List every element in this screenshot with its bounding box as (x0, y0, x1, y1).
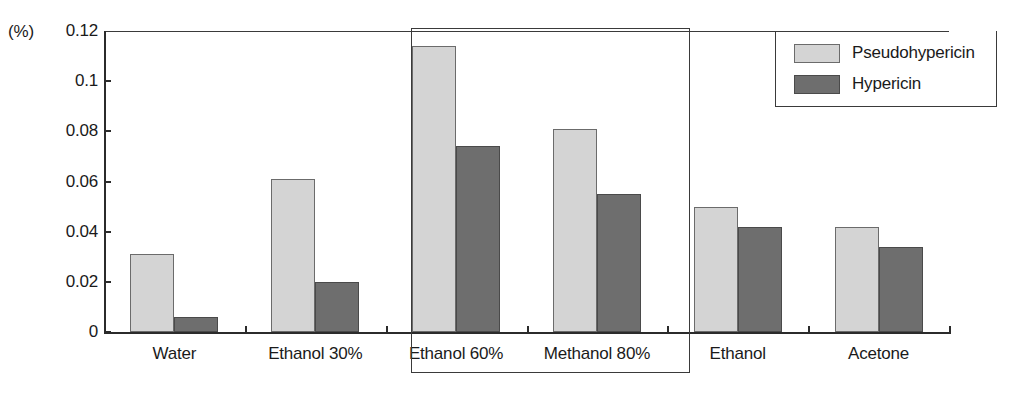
y-axis-tick-label: 0.08 (66, 121, 98, 141)
x-axis-category-label: Ethanol (667, 344, 808, 364)
chart-legend: Pseudohypericin Hypericin (775, 31, 997, 107)
x-axis-category-label: Ethanol 30% (245, 344, 386, 364)
bar (456, 146, 500, 332)
bar-chart: (%) 00.020.040.060.080.10.12 WaterEthano… (0, 0, 1012, 395)
bar (597, 194, 641, 332)
bar (412, 46, 456, 332)
y-axis-unit-label: (%) (8, 22, 34, 42)
y-axis-tick-label: 0.04 (66, 222, 98, 242)
x-axis-category-label: Acetone (808, 344, 949, 364)
bar (879, 247, 923, 332)
y-axis-tick-label: 0.12 (66, 21, 98, 41)
bar (553, 129, 597, 332)
y-axis-tick-label: 0.02 (66, 272, 98, 292)
x-axis-tick-mark (949, 326, 951, 334)
bar (694, 207, 738, 332)
bar (315, 282, 359, 332)
legend-swatch-icon (794, 75, 840, 94)
bar (271, 179, 315, 332)
bar (738, 227, 782, 332)
bar (130, 254, 174, 332)
legend-label: Hypericin (852, 74, 921, 94)
x-axis-category-label: Methanol 80% (527, 344, 668, 364)
x-axis-category-label: Ethanol 60% (386, 344, 527, 364)
legend-item-hypericin: Hypericin (794, 74, 921, 94)
legend-label: Pseudohypericin (852, 43, 975, 63)
y-axis-tick-label: 0.1 (75, 71, 98, 91)
bar (174, 317, 218, 332)
x-axis-category-label: Water (104, 344, 245, 364)
legend-item-pseudohypericin: Pseudohypericin (794, 43, 975, 63)
y-axis-tick-label: 0.06 (66, 172, 98, 192)
bar (835, 227, 879, 332)
y-axis-tick-label: 0 (89, 322, 98, 342)
legend-swatch-icon (794, 44, 840, 63)
